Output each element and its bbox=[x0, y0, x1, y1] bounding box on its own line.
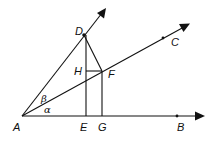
arrowhead-c-icon bbox=[179, 24, 190, 33]
label-c: C bbox=[171, 36, 179, 48]
point-b-dot bbox=[176, 115, 179, 118]
label-b: B bbox=[177, 121, 184, 133]
label-alpha: α bbox=[44, 104, 51, 115]
segment-df bbox=[84, 35, 102, 71]
label-e: E bbox=[80, 121, 88, 133]
label-h: H bbox=[74, 65, 82, 77]
label-d: D bbox=[75, 25, 83, 37]
arrowhead-b-icon bbox=[195, 112, 205, 121]
label-f: F bbox=[108, 68, 116, 80]
ray-ad bbox=[22, 13, 102, 116]
label-beta: β bbox=[40, 93, 47, 104]
label-a: A bbox=[12, 121, 20, 133]
label-g: G bbox=[98, 121, 107, 133]
point-c-dot bbox=[162, 37, 165, 40]
geometry-diagram: A E G B D H F C β α bbox=[0, 0, 214, 141]
